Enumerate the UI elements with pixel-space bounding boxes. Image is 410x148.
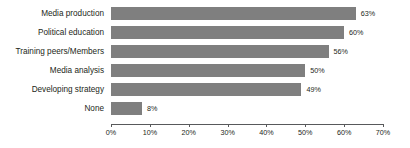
x-axis-tick <box>383 124 384 127</box>
x-axis-tick <box>305 124 306 127</box>
x-axis-tick <box>150 124 151 127</box>
category-label: Developing strategy <box>0 83 104 96</box>
x-axis-tick-label: 60% <box>329 128 359 137</box>
x-axis-tick <box>189 124 190 127</box>
bar-value-label: 56% <box>334 45 348 58</box>
bar[interactable] <box>111 64 305 77</box>
category-label: Media production <box>0 7 104 20</box>
bar[interactable] <box>111 7 356 20</box>
x-axis-tick <box>266 124 267 127</box>
x-axis-tick-label: 10% <box>135 128 165 137</box>
bar[interactable] <box>111 26 344 39</box>
bar[interactable] <box>111 102 142 115</box>
bar-value-label: 63% <box>361 7 375 20</box>
x-axis-tick-label: 30% <box>213 128 243 137</box>
chart-row: Training peers/Members 56% <box>0 45 410 64</box>
x-axis-tick-label: 40% <box>251 128 281 137</box>
chart-row: Media production 63% <box>0 7 410 26</box>
x-axis-tick-label: 0% <box>96 128 126 137</box>
x-axis-tick <box>111 124 112 127</box>
bar-chart: Media production 63% Political education… <box>0 0 410 148</box>
category-label: Political education <box>0 26 104 39</box>
category-label: Training peers/Members <box>0 45 104 58</box>
x-axis-tick-label: 50% <box>290 128 320 137</box>
chart-row: Political education 60% <box>0 26 410 45</box>
bar[interactable] <box>111 45 329 58</box>
chart-rows: Media production 63% Political education… <box>0 7 410 121</box>
category-label: None <box>0 102 104 115</box>
bar-track: 56% <box>111 45 410 58</box>
bar-track: 8% <box>111 102 410 115</box>
x-axis-tick <box>344 124 345 127</box>
bar-value-label: 49% <box>306 83 320 96</box>
bar-value-label: 8% <box>147 102 157 115</box>
chart-row: None 8% <box>0 102 410 121</box>
bar[interactable] <box>111 83 301 96</box>
bar-value-label: 50% <box>310 64 324 77</box>
chart-row: Developing strategy 49% <box>0 83 410 102</box>
bar-track: 63% <box>111 7 410 20</box>
x-axis-tick <box>228 124 229 127</box>
x-axis-tick-label: 70% <box>368 128 398 137</box>
chart-row: Media analysis 50% <box>0 64 410 83</box>
x-axis: 0% 10% 20% 30% 40% 50% 60% 70% <box>111 124 383 125</box>
bar-track: 60% <box>111 26 410 39</box>
x-axis-tick-label: 20% <box>174 128 204 137</box>
bar-track: 49% <box>111 83 410 96</box>
category-label: Media analysis <box>0 64 104 77</box>
bar-value-label: 60% <box>349 26 363 39</box>
bar-track: 50% <box>111 64 410 77</box>
